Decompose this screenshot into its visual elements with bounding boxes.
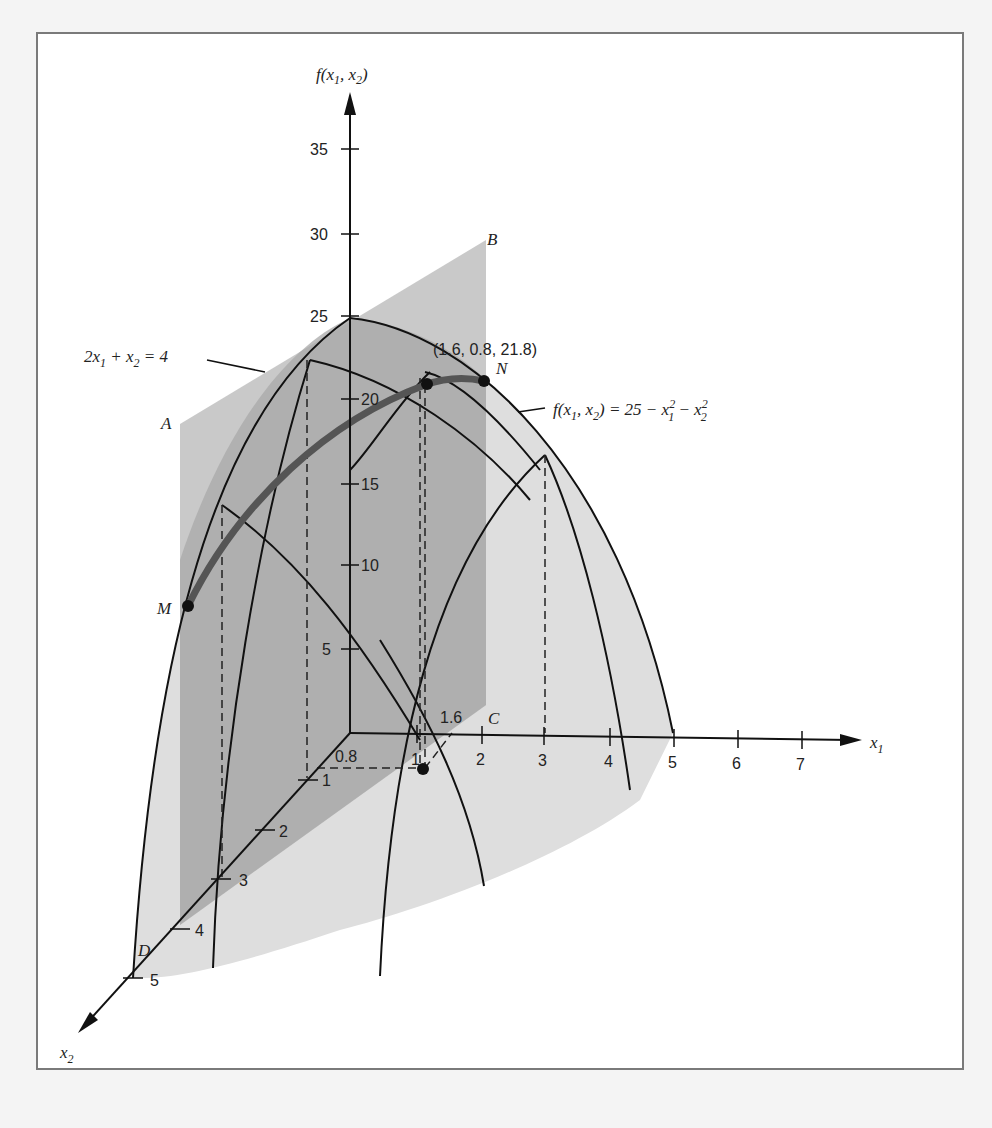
function-label: f(x1, x2) = 25 − x21 − x22 — [553, 397, 708, 424]
x1-tick-5: 5 — [668, 754, 677, 771]
x1-tick-3: 3 — [538, 752, 547, 769]
projection-label-x1: 1.6 — [440, 709, 462, 726]
optimization-diagram: 35 30 25 20 15 10 5 1 2 3 4 5 6 7 1 2 3 … — [0, 0, 992, 1128]
optimum-projection-point — [417, 763, 429, 775]
point-label-d: D — [137, 941, 151, 960]
point-label-m: M — [156, 599, 172, 618]
x2-tick-1: 1 — [322, 772, 331, 789]
x2-axis-label: x2 — [59, 1043, 74, 1066]
z-tick-30: 30 — [310, 226, 328, 243]
x1-tick-6: 6 — [732, 755, 741, 772]
x1-tick-4: 4 — [604, 753, 613, 770]
x1-tick-2: 2 — [476, 751, 485, 768]
z-tick-35: 35 — [310, 141, 328, 158]
z-tick-10: 10 — [361, 557, 379, 574]
z-tick-15: 15 — [361, 476, 379, 493]
optimum-point — [421, 378, 433, 390]
optimum-label: (1.6, 0.8, 21.8) — [433, 341, 537, 358]
z-axis-arrow-icon — [344, 92, 356, 115]
x2-tick-5: 5 — [150, 972, 159, 989]
point-label-n: N — [495, 359, 509, 378]
projection-label-x2: 0.8 — [335, 748, 357, 765]
constraint-label: 2x1 + x2 = 4 — [84, 347, 169, 370]
x1-axis-label: x1 — [869, 733, 884, 756]
x1-axis-arrow-icon — [840, 734, 862, 746]
constraint-leader-line — [207, 360, 265, 372]
z-tick-20: 20 — [361, 391, 379, 408]
x1-tick-7: 7 — [796, 756, 805, 773]
point-label-b: B — [487, 230, 498, 249]
point-label-a: A — [160, 414, 172, 433]
z-tick-5: 5 — [322, 641, 331, 658]
point-m — [182, 600, 194, 612]
point-n — [478, 375, 490, 387]
x2-tick-3: 3 — [239, 872, 248, 889]
z-axis-label: f(x1, x2) — [316, 65, 368, 87]
x2-tick-4: 4 — [195, 922, 204, 939]
function-leader-line — [518, 408, 545, 412]
x2-tick-2: 2 — [279, 823, 288, 840]
z-tick-25: 25 — [310, 308, 328, 325]
point-label-c: C — [488, 709, 500, 728]
